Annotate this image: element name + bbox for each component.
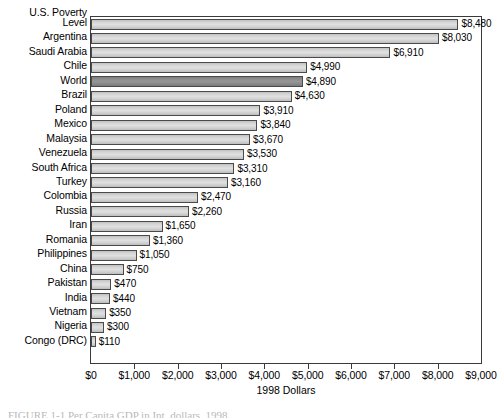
bar-row: $1,050: [91, 250, 483, 261]
figure-caption: FIGURE 1-1 Per Capita GDP in Int. dollar…: [8, 409, 494, 418]
bar-pakistan: [91, 279, 111, 290]
bar-value-label: $2,470: [201, 191, 231, 203]
x-axis-tick-label: $5,000: [292, 369, 324, 382]
bar-value-label: $1,050: [140, 249, 170, 261]
bar-value-label: $8,480: [461, 18, 491, 30]
bar-value-label: $2,260: [192, 206, 222, 218]
category-label: Malaysia: [0, 133, 87, 144]
poverty-gdp-bar-chart: U.S. Poverty LevelArgentinaSaudi ArabiaC…: [0, 0, 502, 418]
x-axis-labels: $0$1,000$2,000$3,000$4,000$5,000$6,000$7…: [0, 369, 502, 383]
bar-row: $4,990: [91, 62, 483, 73]
bar-row: $750: [91, 264, 483, 275]
bar-value-label: $3,840: [260, 119, 290, 131]
bar-iran: [91, 221, 163, 232]
bar-colombia: [91, 192, 198, 203]
category-label: Poland: [0, 104, 87, 115]
bar-row: $2,260: [91, 206, 483, 217]
category-label: Russia: [0, 205, 87, 216]
bar-value-label: $8,030: [442, 32, 472, 44]
bar-saudi-arabia: [91, 47, 390, 58]
category-label: South Africa: [0, 162, 87, 173]
category-label: Philippines: [0, 248, 87, 259]
bar-row: $8,480: [91, 19, 483, 30]
x-axis-tick-label: $2,000: [162, 369, 194, 382]
bar-china: [91, 264, 124, 275]
x-axis-tick-label: $8,000: [422, 369, 454, 382]
bar-row: $440: [91, 293, 483, 304]
bar-row: $3,530: [91, 149, 483, 160]
x-axis-tick-label: $3,000: [205, 369, 237, 382]
bar-vietnam: [91, 308, 106, 319]
x-axis-title: 1998 Dollars: [90, 384, 482, 397]
bar-venezuela: [91, 149, 244, 160]
category-label: Nigeria: [0, 320, 87, 331]
bar-value-label: $3,310: [237, 163, 267, 175]
category-label: Congo (DRC): [0, 335, 87, 346]
bar-row: $3,310: [91, 163, 483, 174]
bar-turkey: [91, 177, 228, 188]
bar-row: $8,030: [91, 33, 483, 44]
bar-value-label: $470: [114, 278, 136, 290]
category-label: Colombia: [0, 190, 87, 201]
bar-row: $1,360: [91, 235, 483, 246]
bar-brazil: [91, 91, 292, 102]
category-label: Vietnam: [0, 306, 87, 317]
bar-value-label: $3,670: [253, 134, 283, 146]
bar-nigeria: [91, 322, 104, 333]
bar-value-label: $1,650: [166, 220, 196, 232]
bar-value-label: $3,160: [231, 177, 261, 189]
bar-value-label: $750: [127, 264, 149, 276]
bar-value-label: $4,890: [306, 76, 336, 88]
category-label: Venezuela: [0, 147, 87, 158]
x-axis-tick-label: $1,000: [119, 369, 151, 382]
bar-romania: [91, 235, 150, 246]
bar-south-africa: [91, 163, 234, 174]
category-axis: U.S. Poverty LevelArgentinaSaudi ArabiaC…: [0, 16, 87, 364]
x-axis-tick-label: $6,000: [335, 369, 367, 382]
bar-congo-drc: [91, 336, 96, 347]
bar-india: [91, 293, 110, 304]
bar-value-label: $4,630: [295, 90, 325, 102]
category-label: Romania: [0, 234, 87, 245]
bar-argentina: [91, 33, 439, 44]
bar-row: $300: [91, 322, 483, 333]
x-axis-tick-label: $0: [85, 369, 96, 382]
category-label: India: [0, 292, 87, 303]
x-axis-tick-label: $9,000: [465, 369, 497, 382]
bar-value-label: $3,910: [263, 105, 293, 117]
category-label: Mexico: [0, 118, 87, 129]
category-label: Saudi Arabia: [0, 46, 87, 57]
bar-row: $110: [91, 336, 483, 347]
category-label: Iran: [0, 219, 87, 230]
x-axis-tick-label: $4,000: [249, 369, 281, 382]
bar-row: $350: [91, 308, 483, 319]
bar-value-label: $1,360: [153, 235, 183, 247]
bar-row: $3,670: [91, 134, 483, 145]
bar-value-label: $4,990: [310, 61, 340, 73]
bar-value-label: $440: [113, 293, 135, 305]
bar-value-label: $6,910: [393, 47, 423, 59]
category-label: Chile: [0, 60, 87, 71]
bar-mexico: [91, 120, 257, 131]
bar-malaysia: [91, 134, 250, 145]
bar-row: $4,890: [91, 76, 483, 87]
bar-chile: [91, 62, 307, 73]
bar-philippines: [91, 250, 137, 261]
bar-row: $470: [91, 279, 483, 290]
category-label: Argentina: [0, 31, 87, 42]
bar-row: $4,630: [91, 91, 483, 102]
bar-row: $3,840: [91, 120, 483, 131]
bar-value-label: $3,530: [247, 148, 277, 160]
category-label: Pakistan: [0, 277, 87, 288]
bar-row: $2,470: [91, 192, 483, 203]
category-label: China: [0, 263, 87, 274]
plot-area: $8,480$8,030$6,910$4,990$4,890$4,630$3,9…: [90, 16, 482, 364]
bar-poland: [91, 105, 260, 116]
category-label: Level: [0, 17, 87, 28]
bar-level: [91, 19, 458, 30]
bar-world: [91, 76, 303, 87]
bar-russia: [91, 206, 189, 217]
bar-row: $3,910: [91, 105, 483, 116]
bar-value-label: $350: [109, 307, 131, 319]
bar-row: $3,160: [91, 177, 483, 188]
